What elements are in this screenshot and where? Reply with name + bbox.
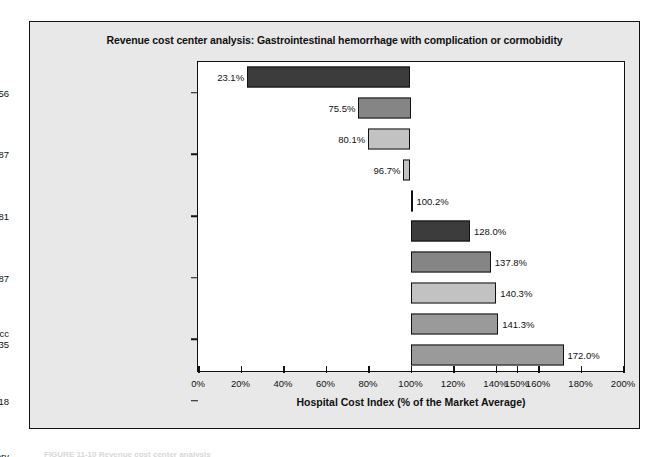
y-axis-label: Respiratory Therapy/$48 [0,451,9,457]
bar-value-label: 172.0% [568,349,600,360]
plot-area: 23.1%Surgical/$15675.5%ICU/CCU/$58780.1%… [197,61,625,372]
bar-1 [358,98,410,119]
x-axis-tick-label: 20% [231,378,250,389]
y-axis-label: ICU/CCU/$587 [0,149,9,160]
bar-2 [368,129,410,150]
x-axis-tick [241,366,243,373]
y-axis-label: Radiology/$218 [0,395,9,406]
x-axis-tick-label: 180% [568,378,592,389]
x-axis-tick [517,366,519,373]
bar-5 [411,221,471,242]
x-axis-tick [326,366,328,373]
chart-title: Revenue cost center analysis: Gastrointe… [30,34,639,46]
y-axis-label: Surgical/$156 [0,87,9,98]
x-axis-tick-label: 100% [398,378,422,389]
x-axis-tick [368,366,370,373]
bar-6 [411,252,491,273]
bar-value-label: 80.1% [338,134,365,145]
bar-8 [411,313,499,334]
bar-7 [411,283,497,304]
figure-panel: Revenue cost center analysis: Gastrointe… [29,21,640,429]
bar-9 [411,344,564,365]
x-axis-tick [623,366,625,373]
bar-value-label: 100.2% [417,195,449,206]
y-axis-label: Pharmacy/$387 [0,272,9,283]
x-axis-tick [198,366,200,373]
bar-value-label: 96.7% [374,164,401,175]
bar-value-label: 128.0% [474,226,506,237]
x-axis-tick [453,366,455,373]
figure-caption: FIGURE 11-10 Revenue cost center analysi… [44,450,211,457]
y-axis-tick [191,215,198,217]
x-axis-tick-label: 120% [441,378,465,389]
y-axis-label: Supplies/$381 [0,211,9,222]
y-axis-label: Therapy: Phys, Occ & Speech/$35 [0,328,9,350]
bar-0 [247,67,410,88]
y-axis-tick [191,154,198,156]
plot-inner: 23.1%Surgical/$15675.5%ICU/CCU/$58780.1%… [198,62,624,371]
x-axis-tick [581,366,583,373]
x-axis-tick-label: 200% [611,378,635,389]
bar-value-label: 23.1% [217,72,244,83]
bar-value-label: 141.3% [502,318,534,329]
x-axis-tick-label: 60% [316,378,335,389]
y-axis-tick [191,338,198,340]
x-axis-tick-label: 160% [526,378,550,389]
x-axis-tick [496,366,498,373]
x-axis-tick-label: 0% [191,378,205,389]
bar-3 [403,159,410,180]
y-axis-tick [191,92,198,94]
bar-value-label: 140.3% [500,288,532,299]
bar-value-label: 137.8% [495,257,527,268]
x-axis-title: Hospital Cost Index (% of the Market Ave… [197,396,625,408]
x-axis-tick [411,366,413,373]
y-axis-tick [191,277,198,279]
bar-4 [411,190,413,211]
x-axis-tick [538,366,540,373]
x-axis-tick [283,366,285,373]
x-axis-tick-label: 80% [358,378,377,389]
x-axis-tick-label: 40% [273,378,292,389]
bar-value-label: 75.5% [329,103,356,114]
